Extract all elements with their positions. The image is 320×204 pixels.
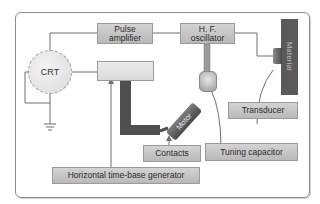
- time-base-block: [97, 61, 154, 81]
- wire-oscillator-transducer: [235, 33, 273, 56]
- contacts-label: Contacts: [143, 145, 201, 162]
- transducer-label: Transducer: [228, 102, 298, 119]
- wire-crt-pulse-amplifier: [50, 33, 97, 53]
- tuning-capacitor-label: Tuning capacitor: [205, 143, 298, 161]
- transducer-icon: [273, 48, 282, 64]
- callout-line-tuning-capacitor: [211, 90, 221, 148]
- pulse-amplifier-block: Pulse amplifier: [97, 23, 153, 44]
- crt-block: CRT: [28, 50, 72, 94]
- tuning-capacitor-icon: [199, 71, 217, 92]
- contact-arm: [120, 81, 160, 135]
- shaft: [204, 44, 210, 72]
- material-block: Material: [281, 19, 298, 95]
- hf-oscillator-block: H. F. oscillator: [180, 23, 235, 44]
- horizontal-time-base-generator-label: Horizontal time-base generator: [52, 167, 200, 184]
